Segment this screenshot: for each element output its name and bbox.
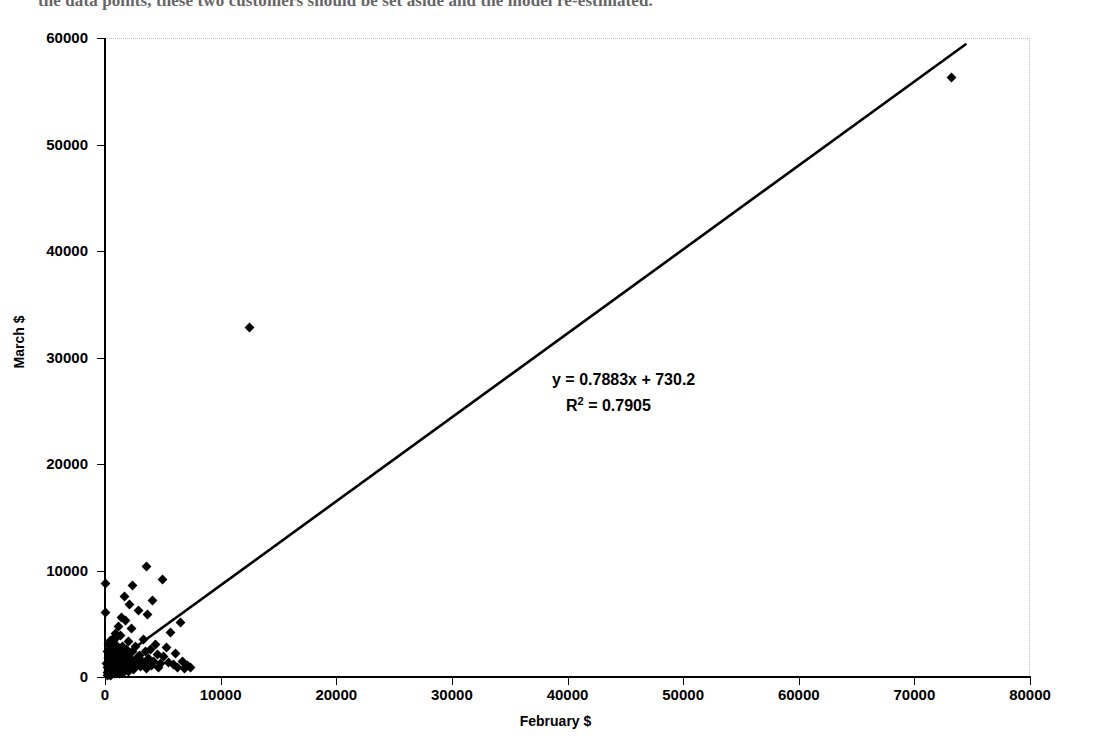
plot-canvas <box>105 38 1030 677</box>
y-axis-title: March $ <box>11 297 27 387</box>
x-tick <box>683 678 684 685</box>
x-tick <box>221 678 222 685</box>
y-tick-label: 60000 <box>18 30 88 45</box>
trendline-annotation: y = 0.7883x + 730.2 R2 = 0.7905 <box>552 368 695 419</box>
y-tick <box>97 38 105 39</box>
x-tick <box>452 678 453 685</box>
y-tick <box>97 358 105 359</box>
y-tick-label: 10000 <box>18 563 88 578</box>
y-tick-label: 50000 <box>18 137 88 152</box>
scatter-chart-figure: 0100002000030000400005000060000 01000020… <box>0 0 1111 752</box>
y-tick-label: 40000 <box>18 243 88 258</box>
x-tick-label: 70000 <box>869 687 959 702</box>
r-squared-label: R2 = 0.7905 <box>552 393 695 419</box>
y-tick <box>97 571 105 572</box>
x-tick-label: 80000 <box>985 687 1075 702</box>
x-tick-label: 20000 <box>291 687 381 702</box>
x-tick-label: 30000 <box>407 687 497 702</box>
x-tick <box>336 678 337 685</box>
y-tick <box>97 145 105 146</box>
x-tick <box>799 678 800 685</box>
r-squared-exponent: 2 <box>578 395 584 407</box>
x-axis-title: February $ <box>0 713 1111 729</box>
x-tick-label: 0 <box>60 687 150 702</box>
x-tick-label: 60000 <box>754 687 844 702</box>
x-tick <box>914 678 915 685</box>
r-squared-base: R <box>566 397 578 414</box>
trendline <box>105 38 1030 677</box>
x-tick-label: 10000 <box>176 687 266 702</box>
y-tick <box>97 251 105 252</box>
y-tick-label: 0 <box>18 669 88 684</box>
r-squared-value: = 0.7905 <box>588 397 651 414</box>
x-tick <box>1030 678 1031 685</box>
regression-equation-label: y = 0.7883x + 730.2 <box>552 368 695 393</box>
y-tick <box>97 464 105 465</box>
x-tick <box>568 678 569 685</box>
y-tick-label: 30000 <box>18 350 88 365</box>
y-tick-label: 20000 <box>18 456 88 471</box>
x-tick-label: 40000 <box>523 687 613 702</box>
page-root: the data points, these two customers sho… <box>0 0 1111 752</box>
x-tick-label: 50000 <box>638 687 728 702</box>
